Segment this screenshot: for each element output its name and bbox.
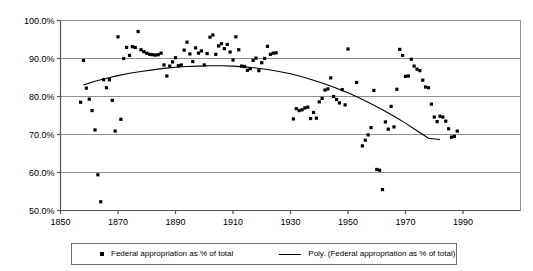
legend-item-points: Federal appropriation as % of total bbox=[100, 250, 233, 258]
data-point-marker bbox=[298, 109, 301, 112]
data-point-marker bbox=[105, 86, 108, 89]
y-axis-tick-labels: 50.0%60.0%70.0%80.0%90.0%100.0% bbox=[24, 16, 55, 216]
data-point-marker bbox=[413, 65, 416, 68]
data-point-marker bbox=[329, 76, 332, 79]
data-point-marker bbox=[223, 47, 226, 50]
x-axis-tick-labels: 18501870189019101930195019701990 bbox=[50, 217, 473, 227]
data-point-marker bbox=[292, 117, 295, 120]
data-point-marker bbox=[321, 97, 324, 100]
data-point-marker bbox=[188, 52, 191, 55]
data-point-marker bbox=[174, 56, 177, 59]
data-point-marker bbox=[300, 108, 303, 111]
data-point-marker bbox=[384, 120, 387, 123]
data-point-marker bbox=[275, 51, 278, 54]
data-point-marker bbox=[234, 35, 237, 38]
y-axis bbox=[57, 21, 61, 211]
legend-square-marker-icon bbox=[100, 252, 104, 256]
data-point-marker bbox=[165, 74, 168, 77]
data-point-marker bbox=[407, 74, 410, 77]
data-point-marker bbox=[367, 133, 370, 136]
data-point-marker bbox=[312, 111, 315, 114]
data-point-marker bbox=[85, 87, 88, 90]
y-tick-label: 70.0% bbox=[29, 130, 55, 140]
legend-line-marker-icon bbox=[279, 254, 301, 255]
data-point-marker bbox=[139, 48, 142, 51]
data-points-series bbox=[79, 30, 459, 203]
data-point-marker bbox=[375, 168, 378, 171]
data-point-marker bbox=[421, 79, 424, 82]
data-point-marker bbox=[108, 78, 111, 81]
data-point-marker bbox=[226, 43, 229, 46]
chart-legend: Federal appropriation as % of total Poly… bbox=[71, 243, 457, 265]
data-point-marker bbox=[162, 63, 165, 66]
y-tick-label: 100.0% bbox=[24, 16, 55, 26]
data-point-marker bbox=[154, 53, 157, 56]
data-point-marker bbox=[361, 144, 364, 147]
data-point-marker bbox=[433, 115, 436, 118]
data-point-marker bbox=[145, 52, 148, 55]
legend-label-trendline: Poly. (Federal appropriation as % of tot… bbox=[308, 250, 455, 258]
y-tick-label: 50.0% bbox=[29, 206, 55, 216]
data-point-marker bbox=[269, 53, 272, 56]
data-point-marker bbox=[171, 60, 174, 63]
data-point-marker bbox=[125, 46, 128, 49]
data-point-marker bbox=[450, 136, 453, 139]
data-point-marker bbox=[266, 45, 269, 48]
data-point-marker bbox=[257, 69, 260, 72]
y-tick-label: 80.0% bbox=[29, 92, 55, 102]
data-point-marker bbox=[415, 68, 418, 71]
data-point-marker bbox=[447, 127, 450, 130]
data-point-marker bbox=[355, 81, 358, 84]
data-point-marker bbox=[183, 49, 186, 52]
data-point-marker bbox=[214, 53, 217, 56]
data-point-marker bbox=[185, 41, 188, 44]
data-point-marker bbox=[372, 89, 375, 92]
data-point-marker bbox=[206, 52, 209, 55]
data-point-marker bbox=[208, 36, 211, 39]
data-point-marker bbox=[148, 53, 151, 56]
data-point-marker bbox=[99, 200, 102, 203]
data-point-marker bbox=[453, 135, 456, 138]
data-point-marker bbox=[410, 58, 413, 61]
data-point-marker bbox=[82, 59, 85, 62]
data-point-marker bbox=[252, 59, 255, 62]
x-tick-label: 1930 bbox=[280, 217, 300, 227]
data-point-marker bbox=[119, 118, 122, 121]
data-point-marker bbox=[438, 115, 441, 118]
data-point-marker bbox=[211, 33, 214, 36]
data-point-marker bbox=[263, 57, 266, 60]
data-point-marker bbox=[381, 188, 384, 191]
data-point-marker bbox=[378, 169, 381, 172]
data-point-marker bbox=[272, 52, 275, 55]
chart-plot-svg: 50.0%60.0%70.0%80.0%90.0%100.0% 18501870… bbox=[0, 0, 533, 240]
data-point-marker bbox=[303, 106, 306, 109]
data-point-marker bbox=[114, 129, 117, 132]
x-tick-label: 1850 bbox=[50, 217, 70, 227]
data-point-marker bbox=[122, 57, 125, 60]
data-point-marker bbox=[332, 95, 335, 98]
data-point-marker bbox=[151, 53, 154, 56]
data-point-marker bbox=[430, 103, 433, 106]
data-point-marker bbox=[401, 54, 404, 57]
legend-label-points: Federal appropriation as % of total bbox=[111, 250, 233, 258]
data-point-marker bbox=[96, 173, 99, 176]
data-point-marker bbox=[217, 44, 220, 47]
data-point-marker bbox=[295, 107, 298, 110]
data-point-marker bbox=[369, 126, 372, 129]
data-point-marker bbox=[390, 105, 393, 108]
data-point-marker bbox=[424, 85, 427, 88]
data-point-marker bbox=[111, 99, 114, 102]
data-point-marker bbox=[142, 50, 145, 53]
data-point-marker bbox=[344, 103, 347, 106]
data-point-marker bbox=[116, 35, 119, 38]
data-point-marker bbox=[364, 139, 367, 142]
y-tick-label: 90.0% bbox=[29, 54, 55, 64]
data-point-marker bbox=[306, 106, 309, 109]
data-point-marker bbox=[237, 48, 240, 51]
y-tick-label: 60.0% bbox=[29, 168, 55, 178]
data-point-marker bbox=[326, 87, 329, 90]
x-tick-label: 1950 bbox=[338, 217, 358, 227]
data-point-marker bbox=[323, 88, 326, 91]
data-point-marker bbox=[79, 101, 82, 104]
data-point-marker bbox=[91, 109, 94, 112]
